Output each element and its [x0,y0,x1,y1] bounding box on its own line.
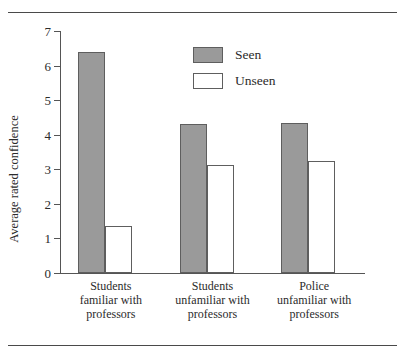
y-tick-mark [54,169,60,170]
y-axis-title: Average rated confidence [7,115,22,242]
chart-legend: SeenUnseen [193,46,276,98]
y-tick-mark [54,100,60,101]
legend-item-unseen[interactable]: Unseen [193,72,276,89]
legend-label-unseen: Unseen [235,74,276,88]
y-tick-mark [54,135,60,136]
legend-item-seen[interactable]: Seen [193,46,276,63]
y-tick-label: 4 [45,128,52,141]
bar-unseen-2 [308,161,335,273]
bar-unseen-0 [105,226,132,273]
x-axis-line [60,273,365,274]
y-tick-mark [54,204,60,205]
y-tick-mark [54,31,60,32]
legend-label-seen: Seen [235,48,261,62]
y-tick-label: 7 [45,25,52,38]
y-tick-mark [54,238,60,239]
bottom-horizontal-rule [8,345,397,346]
bar-seen-0 [78,52,105,273]
legend-swatch-unseen [193,73,223,89]
top-horizontal-rule [8,12,397,13]
y-tick-label: 5 [45,94,52,107]
bar-unseen-1 [207,165,234,273]
figure-container: Average rated confidence 01234567 Studen… [0,0,405,358]
bar-seen-2 [281,123,308,273]
x-axis-label-2: Police unfamiliar with professors [251,279,377,321]
y-tick-label: 6 [45,59,52,72]
y-tick-mark [54,273,60,274]
y-tick-label: 3 [45,163,52,176]
y-axis-line [60,31,61,273]
y-tick-label: 0 [45,267,52,280]
y-tick-mark [54,66,60,67]
y-tick-label: 1 [45,232,52,245]
legend-swatch-seen [193,47,223,63]
bar-seen-1 [180,124,207,273]
y-tick-label: 2 [45,197,52,210]
